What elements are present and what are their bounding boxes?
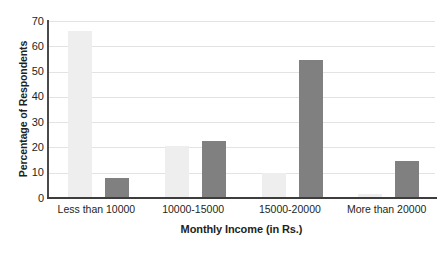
x-axis-title: Monthly Income (in Rs.) <box>48 223 435 235</box>
bar-series-2-0[interactable] <box>105 178 129 198</box>
bar-group <box>338 21 435 198</box>
bar-series-1-0[interactable] <box>68 31 92 198</box>
bar-group <box>242 21 339 198</box>
bar-group <box>48 21 145 198</box>
y-tick-label: 30 <box>22 117 44 128</box>
bar-series-2-2[interactable] <box>299 60 323 198</box>
y-tick-label: 0 <box>22 193 44 204</box>
x-tick-label: More than 20000 <box>332 203 442 215</box>
x-tick-label: 10000-15000 <box>138 203 248 215</box>
y-tick-label: 20 <box>22 142 44 153</box>
bar-chart: Percentage of Respondents 01020304050607… <box>0 0 447 258</box>
y-tick-label: 40 <box>22 91 44 102</box>
bar-series-2-1[interactable] <box>202 141 226 198</box>
x-axis-tick-labels: Less than 1000010000-1500015000-20000Mor… <box>48 203 435 219</box>
y-tick-label: 60 <box>22 41 44 52</box>
bar-series-2-3[interactable] <box>395 161 419 198</box>
y-tick-label: 50 <box>22 66 44 77</box>
x-tick-label: 15000-20000 <box>235 203 345 215</box>
x-tick-label: Less than 10000 <box>41 203 151 215</box>
y-axis-tick-labels: 010203040506070 <box>18 0 44 258</box>
bar-series-1-1[interactable] <box>165 146 189 198</box>
x-axis-line <box>47 197 437 199</box>
bar-group <box>145 21 242 198</box>
y-tick-label: 10 <box>22 167 44 178</box>
y-tick-label: 70 <box>22 16 44 27</box>
bar-series-1-2[interactable] <box>262 173 286 198</box>
y-axis-line <box>47 20 49 199</box>
plot-area <box>48 21 435 198</box>
